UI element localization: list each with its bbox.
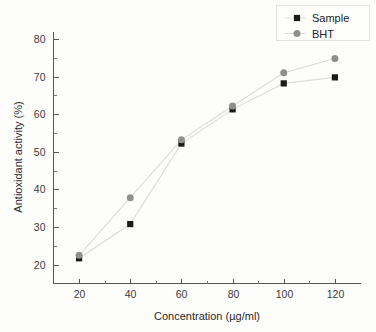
series-markers-bht: [76, 55, 339, 259]
y-tick-label: 20: [34, 259, 46, 271]
y-axis-tick-labels: 20304050607080: [34, 33, 46, 271]
legend-label: BHT: [312, 28, 334, 40]
plot-axes: [54, 32, 361, 284]
data-point-square: [127, 221, 133, 227]
x-axis-tick-labels: 20406080100120: [74, 288, 345, 300]
series-markers: [76, 55, 339, 261]
x-tick-label: 80: [228, 288, 240, 300]
data-point-square: [281, 80, 287, 86]
legend-marker-square: [294, 15, 300, 21]
y-tick-label: 80: [34, 33, 46, 45]
y-tick-label: 60: [34, 108, 46, 120]
series-lines: [79, 59, 335, 259]
data-point-circle: [127, 194, 134, 201]
x-axis-title: Concentration (µg/ml): [154, 310, 260, 322]
y-tick-label: 50: [34, 146, 46, 158]
data-point-circle: [178, 136, 185, 143]
legend-label: Sample: [312, 12, 349, 24]
chart-page: 20304050607080 20406080100120 Concentrat…: [0, 0, 376, 332]
y-axis-title: Antioxidant activity (%): [12, 101, 24, 212]
y-tick-label: 70: [34, 71, 46, 83]
y-tick-label: 30: [34, 221, 46, 233]
x-tick-label: 100: [276, 288, 294, 300]
data-point-circle: [280, 69, 287, 76]
series-markers-sample: [76, 74, 338, 261]
x-tick-label: 40: [125, 288, 137, 300]
legend-marker-circle: [294, 30, 301, 37]
series-line-sample: [79, 77, 335, 258]
x-tick-label: 60: [176, 288, 188, 300]
antioxidant-activity-chart: 20304050607080 20406080100120 Concentrat…: [0, 0, 376, 332]
data-point-circle: [76, 252, 83, 259]
y-tick-label: 40: [34, 183, 46, 195]
data-point-square: [332, 74, 338, 80]
x-tick-label: 20: [74, 288, 86, 300]
data-point-circle: [229, 102, 236, 109]
data-point-circle: [331, 55, 338, 62]
legend[interactable]: SampleBHT: [277, 6, 370, 41]
x-tick-label: 120: [327, 288, 345, 300]
series-line-bht: [79, 59, 335, 256]
y-axis-ticks: [54, 40, 59, 266]
